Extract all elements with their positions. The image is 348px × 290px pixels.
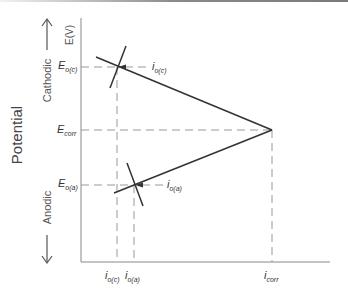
ioc-axis-label: io(c): [105, 270, 120, 283]
cathodic-label: Cathodic: [41, 54, 54, 108]
reference-dashed-lines: [81, 67, 272, 262]
ecorr-label: Ecorr: [57, 124, 76, 137]
potential-axis-title: Potential: [8, 100, 26, 170]
anodic-label: Anodic: [41, 183, 54, 233]
eoa-label: Eo(a): [58, 178, 78, 191]
y-axis-unit-label: E(V): [64, 20, 76, 50]
ioa-pointer-label: io(a): [167, 179, 182, 192]
icorr-axis-label: icorr: [264, 270, 279, 283]
ioa-axis-label: io(a): [125, 270, 140, 283]
ioc-pointer-label: io(c): [152, 61, 167, 74]
eoc-label: Eo(c): [58, 60, 77, 73]
evans-diagram-plot: [0, 0, 348, 290]
anodic-polarization-line: [114, 130, 272, 193]
